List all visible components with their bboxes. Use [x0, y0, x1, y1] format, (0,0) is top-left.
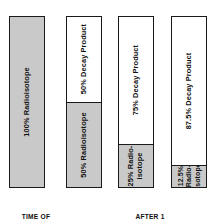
stacked-bar-1: 50% Decay Product 50% Radioisotope	[66, 16, 102, 188]
segment-label-line-1: 25% Radio-	[126, 145, 135, 186]
segment-label: 50% Decay Product	[80, 24, 89, 94]
bar-segment-decay-product: 50% Decay Product	[67, 17, 101, 102]
stacked-bar-3: 87.5% Decay Product 12.5% Radio- isotope	[171, 16, 207, 188]
segment-label: 25% Radio- isotope	[127, 144, 144, 187]
stacked-bar-2: 75% Decay Product 25% Radio- isotope	[118, 16, 154, 188]
decay-column-2: 75% Decay Product 25% Radio- isotope AFT…	[118, 16, 154, 188]
bar-segment-decay-product: 87.5% Decay Product	[172, 17, 206, 165]
segment-label: 100% Radioisotope	[23, 67, 32, 136]
column-caption-0: TIME OF FORMATION	[0, 212, 72, 224]
decay-column-3: 87.5% Decay Product 12.5% Radio- isotope…	[171, 16, 207, 188]
segment-label: 50% Radioisotope	[80, 112, 89, 177]
segment-label-line-1: 12.5%	[177, 166, 184, 186]
decay-column-1: 50% Decay Product 50% Radioisotope AFTER…	[66, 16, 102, 188]
segment-label-line-3: isotope	[193, 165, 200, 187]
column-caption-1: AFTER 1 HALF-LIFE	[114, 212, 186, 224]
bar-segment-radioisotope: 50% Radioisotope	[67, 102, 101, 188]
caption-line-2: HALF-LIFE	[114, 222, 186, 224]
bar-segment-radioisotope: 25% Radio- isotope	[119, 144, 153, 187]
segment-label: 12.5% Radio- isotope	[177, 165, 202, 187]
bar-segment-radioisotope: 12.5% Radio- isotope	[172, 165, 206, 187]
caption-line-1: TIME OF	[0, 212, 72, 222]
stacked-bar-0: 100% Radioisotope	[9, 16, 45, 188]
half-life-decay-diagram: 100% Radioisotope TIME OF FORMATION 50% …	[0, 0, 215, 224]
bar-segment-decay-product: 75% Decay Product	[119, 17, 153, 144]
decay-column-0: 100% Radioisotope TIME OF FORMATION	[9, 16, 45, 188]
segment-label: 87.5% Decay Product	[185, 53, 194, 130]
segment-label: 75% Decay Product	[132, 45, 141, 115]
caption-line-2: FORMATION	[0, 222, 72, 224]
bar-segment-radioisotope: 100% Radioisotope	[10, 17, 44, 187]
caption-line-1: AFTER 1	[114, 212, 186, 222]
segment-label-line-2: Radio-	[185, 165, 192, 187]
segment-label-line-2: isotope	[135, 152, 144, 179]
